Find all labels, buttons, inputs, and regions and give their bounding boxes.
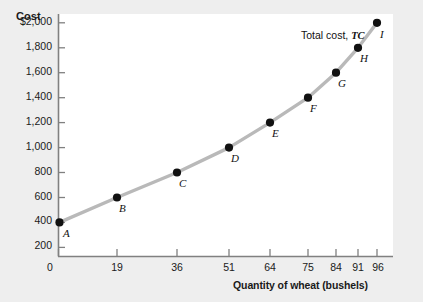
point-label-b: B bbox=[119, 202, 126, 214]
point-label-c: C bbox=[179, 177, 186, 189]
x-tick-36: 36 bbox=[171, 261, 183, 273]
point-label-d: D bbox=[231, 152, 239, 164]
point-label-e: E bbox=[272, 127, 279, 139]
x-tick-19: 19 bbox=[111, 261, 123, 273]
chart-svg bbox=[0, 0, 423, 302]
x-tick-75: 75 bbox=[302, 261, 314, 273]
x-tick-96: 96 bbox=[372, 261, 384, 273]
x-tick-84: 84 bbox=[330, 261, 342, 273]
data-point-f bbox=[304, 94, 312, 102]
data-point-h bbox=[354, 44, 362, 52]
axes-group bbox=[58, 14, 393, 257]
series-label-tc: TC bbox=[351, 30, 364, 41]
x-tick-91: 91 bbox=[352, 261, 364, 273]
x-tick-marks bbox=[59, 249, 378, 256]
point-label-g: G bbox=[338, 77, 346, 89]
series-label-text: Total cost, bbox=[301, 29, 348, 41]
data-point-c bbox=[173, 168, 181, 176]
point-label-i: I bbox=[380, 28, 384, 40]
series-label-total-cost: Total cost, TC bbox=[301, 29, 365, 41]
data-point-b bbox=[113, 193, 121, 201]
point-label-f: F bbox=[310, 102, 317, 114]
x-tick-0: 0 bbox=[47, 261, 53, 273]
data-point-i bbox=[373, 19, 381, 27]
total-cost-curve bbox=[60, 23, 378, 223]
data-point-a bbox=[55, 218, 63, 226]
x-tick-51: 51 bbox=[223, 261, 235, 273]
data-point-d bbox=[225, 144, 233, 152]
data-point-markers bbox=[55, 19, 381, 227]
point-label-h: H bbox=[360, 52, 368, 64]
data-point-g bbox=[332, 69, 340, 77]
x-tick-64: 64 bbox=[264, 261, 276, 273]
chart-figure: Cost Quantity of wheat (bushels) bbox=[0, 0, 423, 302]
point-label-a: A bbox=[63, 227, 70, 239]
data-point-e bbox=[266, 119, 274, 127]
